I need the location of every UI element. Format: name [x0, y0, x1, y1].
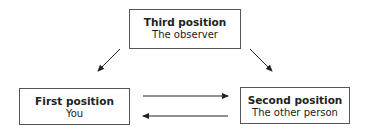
- first-position-title: First position: [20, 95, 129, 108]
- arrow-third-to-first: [98, 49, 120, 71]
- first-position-box: First position You: [19, 88, 130, 125]
- second-position-title: Second position: [241, 94, 349, 107]
- second-position-subtitle: The other person: [241, 107, 349, 119]
- arrow-third-to-second: [250, 49, 272, 71]
- first-position-subtitle: You: [20, 108, 129, 120]
- third-position-subtitle: The observer: [130, 29, 240, 41]
- second-position-box: Second position The other person: [240, 87, 350, 124]
- third-position-title: Third position: [130, 16, 240, 29]
- third-position-box: Third position The observer: [129, 9, 241, 49]
